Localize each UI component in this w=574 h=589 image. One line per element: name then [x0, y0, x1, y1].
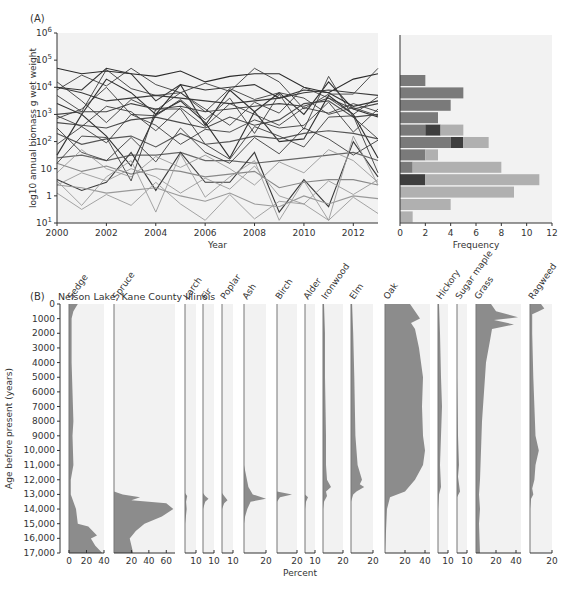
y-tick-label: 11,000: [24, 460, 56, 470]
taxon-column-birch: 20Birch: [273, 277, 303, 566]
histogram-bar: [400, 211, 413, 222]
y-tick-label: 4000: [32, 358, 55, 368]
taxon-column-ironwood: 20Ironwood: [319, 261, 351, 566]
y-tick-label: 10: [41, 164, 53, 174]
histogram-bar: [451, 137, 464, 148]
histogram-bar: [400, 137, 451, 148]
column-background: [277, 304, 297, 553]
y-tick-label: 8000: [32, 416, 55, 426]
x-tick-label: 40: [98, 556, 110, 566]
taxon-label: Ragweed: [526, 261, 558, 301]
x-tick-label: 4: [448, 228, 454, 238]
x-tick-label: 2010: [292, 228, 315, 238]
taxon-label: Ash: [240, 282, 258, 301]
y-tick-label: 9000: [32, 431, 55, 441]
taxon-column-elm: 20Elm: [347, 282, 379, 566]
y-tick-label: 13,000: [24, 489, 56, 499]
column-background: [457, 304, 467, 553]
x-tick-label: 10: [227, 556, 239, 566]
y-tick-label: 2000: [32, 328, 55, 338]
y-tick-label: 103: [36, 107, 52, 119]
x-tick-label: 10: [442, 556, 454, 566]
taxon-column-sedge: 02040Sedge: [65, 272, 110, 566]
time-series-plot: 1011101021031041051062000200220042006200…: [28, 26, 378, 250]
histogram-bar: [425, 149, 438, 160]
x-tick-label: 2: [422, 228, 428, 238]
x-tick-label: 20: [291, 556, 303, 566]
y-tick-label: 3000: [32, 343, 55, 353]
y-tick-label: 16,000: [24, 533, 56, 543]
taxon-column-ragweed: 20Ragweed: [526, 261, 558, 566]
taxon-label: Birch: [273, 277, 294, 301]
y-tick-label: 102: [36, 135, 52, 147]
x-tick-label: 10: [461, 556, 473, 566]
x-tick-label: 20: [126, 556, 138, 566]
histogram-bar: [400, 199, 451, 210]
taxon-label: Oak: [381, 280, 400, 301]
histogram-bar: [400, 187, 514, 198]
histogram-bar: [400, 162, 413, 173]
histogram-bar: [400, 100, 451, 111]
x-tick-label: 2004: [144, 228, 167, 238]
y-axis-title: Age before present (years): [4, 368, 14, 489]
taxon-column-spruce: 204060Spruce: [110, 269, 175, 566]
column-background: [244, 304, 266, 553]
histogram-bar: [400, 87, 463, 98]
x-tick-label: 10: [190, 556, 202, 566]
x-tick-label: 40: [419, 556, 431, 566]
x-tick-label: 8: [498, 228, 504, 238]
column-background: [323, 304, 343, 553]
taxon-label: Poplar: [218, 272, 242, 301]
column-background: [185, 304, 196, 553]
taxon-column-poplar: 10Poplar: [218, 272, 242, 566]
column-background: [203, 304, 214, 553]
x-axis-title: Year: [207, 240, 227, 250]
x-tick-label: 2008: [243, 228, 266, 238]
taxon-column-grass: 2040Grass: [472, 274, 522, 566]
taxon-label: Elm: [347, 282, 365, 302]
y-tick-label: 14,000: [24, 504, 56, 514]
x-tick-label: 10: [208, 556, 220, 566]
histogram-bar: [400, 112, 438, 123]
x-tick-label: 20: [399, 556, 411, 566]
column-background: [222, 304, 233, 553]
x-tick-label: 20: [367, 556, 379, 566]
y-tick-label: 0: [49, 299, 55, 309]
x-tick-label: 20: [260, 556, 272, 566]
y-tick-label: 15,000: [24, 519, 56, 529]
x-tick-label: 10: [521, 228, 533, 238]
histogram-bar: [463, 137, 488, 148]
x-tick-label: 0: [66, 556, 72, 566]
y-tick-label: 106: [36, 26, 52, 38]
histogram-bar: [400, 174, 425, 185]
y-tick-label: 101: [36, 216, 52, 228]
histogram-bar: [425, 174, 539, 185]
y-tick-label: 105: [36, 53, 52, 65]
column-background: [305, 304, 315, 553]
frequency-histogram: 024681012Frequency: [397, 35, 558, 250]
x-tick-label: 20: [81, 556, 93, 566]
x-tick-label: 2012: [342, 228, 365, 238]
histogram-bar: [400, 125, 425, 136]
x-axis-title: Percent: [283, 568, 317, 578]
taxon-column-fir: 10Fir: [199, 286, 220, 566]
x-tick-label: 12: [546, 228, 557, 238]
x-tick-label: 10: [309, 556, 321, 566]
histogram-bar: [400, 149, 425, 160]
x-axis-title: Frequency: [453, 240, 500, 250]
y-tick-label: 12,000: [24, 475, 56, 485]
x-tick-label: 20: [337, 556, 349, 566]
x-tick-label: 40: [143, 556, 155, 566]
taxon-column-alder: 10Alder: [301, 276, 323, 566]
y-tick-label: 5000: [32, 372, 55, 382]
histogram-bar: [425, 125, 440, 136]
taxon-column-larch: 10Larch: [181, 275, 203, 566]
x-tick-label: 60: [161, 556, 173, 566]
y-tick-label: 104: [36, 80, 52, 92]
y-tick-label: 10,000: [24, 445, 56, 455]
figure: (A) 101110102103104105106200020022004200…: [0, 0, 574, 589]
taxon-label: Alder: [301, 276, 323, 301]
y-axis-title: log10 annual biomass g wet weight: [28, 48, 38, 208]
x-tick-label: 2000: [46, 228, 69, 238]
x-tick-label: 40: [510, 556, 522, 566]
